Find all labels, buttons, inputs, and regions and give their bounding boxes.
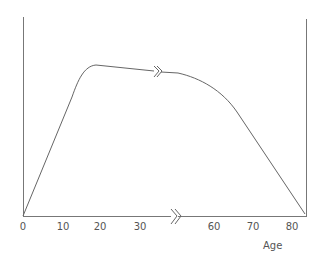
curve-break-icon [154, 66, 162, 77]
x-tick-10: 10 [57, 221, 70, 232]
x-tick-70: 70 [247, 221, 260, 232]
x-tick-30: 30 [134, 221, 147, 232]
x-tick-0: 0 [20, 221, 26, 232]
x-tick-60: 60 [208, 221, 221, 232]
x-tick-80: 80 [286, 221, 299, 232]
chart-svg [0, 0, 322, 262]
x-axis-label: Age [263, 240, 282, 251]
curve-left [23, 65, 154, 216]
x-tick-20: 20 [94, 221, 107, 232]
curve-right [161, 72, 305, 214]
